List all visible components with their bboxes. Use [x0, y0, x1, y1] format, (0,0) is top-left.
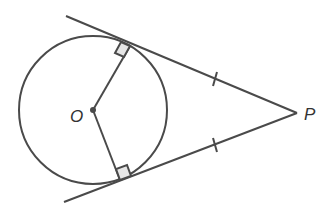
right-angle-marker-lower — [116, 165, 131, 180]
label-o: O — [70, 107, 83, 126]
tangent-diagram: O P — [0, 0, 332, 207]
center-point — [90, 107, 96, 113]
right-angle-marker-upper — [115, 42, 130, 57]
label-p: P — [304, 105, 316, 124]
